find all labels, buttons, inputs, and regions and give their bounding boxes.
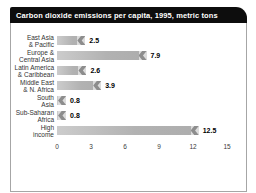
chart-row: South Asia 0.8: [11, 93, 246, 108]
bar-track: 2.5: [57, 33, 246, 48]
chart-title-bar: Carbon dioxide emissions per capita, 199…: [10, 7, 247, 23]
value-label: 0.8: [70, 96, 80, 105]
bar: [57, 81, 101, 90]
chart-plot-area: East Asia & Pacific 2.5 Europe & Central…: [10, 23, 247, 192]
chart-row: Europe & Central Asia 7.9: [11, 48, 246, 63]
value-label: 2.6: [90, 66, 100, 75]
value-label: 7.9: [151, 51, 161, 60]
chart-row: Middle East & N. Africa 3.9: [11, 78, 246, 93]
category-label: Latin America & Caribbean: [11, 64, 57, 78]
x-tick-label: 3: [89, 143, 93, 150]
x-axis: 03691215: [57, 143, 246, 153]
bar: [57, 66, 86, 75]
value-label: 3.9: [105, 81, 115, 90]
bar-track: 0.8: [57, 93, 246, 108]
bar: [57, 126, 199, 135]
bar-track: 2.6: [57, 63, 246, 78]
bar: [57, 111, 66, 120]
category-label: East Asia & Pacific: [11, 34, 57, 48]
bar-track: 3.9: [57, 78, 246, 93]
chart-row: Sub-Saharan Africa 0.8: [11, 108, 246, 123]
value-label: 2.5: [89, 36, 99, 45]
category-label: South Asia: [11, 94, 57, 108]
chart-row: East Asia & Pacific 2.5: [11, 33, 246, 48]
category-label: Europe & Central Asia: [11, 49, 57, 63]
chart-row: High income 12.5: [11, 123, 246, 138]
x-tick-label: 15: [223, 143, 230, 150]
category-label: High income: [11, 124, 57, 138]
chart-row: Latin America & Caribbean 2.6: [11, 63, 246, 78]
bar: [57, 96, 66, 105]
bar-rows: East Asia & Pacific 2.5 Europe & Central…: [11, 33, 246, 138]
x-tick-label: 9: [157, 143, 161, 150]
chart-card: Carbon dioxide emissions per capita, 199…: [10, 7, 247, 192]
bar: [57, 51, 147, 60]
category-label: Middle East & N. Africa: [11, 79, 57, 93]
chart-title: Carbon dioxide emissions per capita, 199…: [16, 11, 218, 20]
bar: [57, 36, 85, 45]
x-tick-label: 6: [123, 143, 127, 150]
x-tick-label: 0: [55, 143, 59, 150]
category-label: Sub-Saharan Africa: [11, 109, 57, 123]
value-label: 0.8: [70, 111, 80, 120]
bar-track: 12.5: [57, 123, 246, 138]
value-label: 12.5: [203, 126, 217, 135]
bar-track: 0.8: [57, 108, 246, 123]
x-tick-label: 12: [189, 143, 196, 150]
bar-track: 7.9: [57, 48, 246, 63]
